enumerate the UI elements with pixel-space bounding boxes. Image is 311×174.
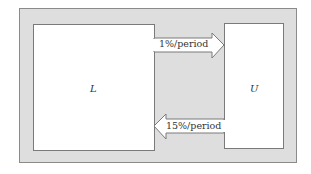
flow-arrows <box>0 0 311 174</box>
stock-label-u: U <box>250 83 258 94</box>
flow-label-l-to-u: 1%/period <box>159 38 208 49</box>
stock-label-l: L <box>90 83 97 94</box>
flow-label-u-to-l: 15%/period <box>166 120 221 131</box>
